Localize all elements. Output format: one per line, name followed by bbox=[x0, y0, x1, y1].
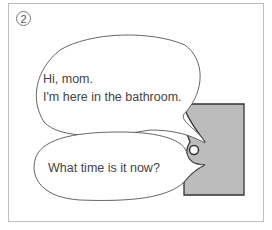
illustration bbox=[0, 0, 272, 230]
doorknob-icon bbox=[190, 146, 199, 155]
bubble1-line1: Hi, mom. bbox=[43, 70, 93, 88]
bubble2-text: What time is it now? bbox=[48, 159, 160, 177]
bubble1-line2: I'm here in the bathroom. bbox=[43, 88, 182, 106]
